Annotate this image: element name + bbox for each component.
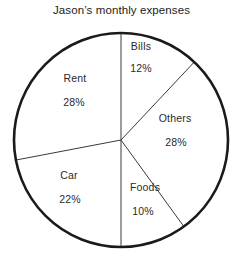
slice-value-bills: 12%	[130, 62, 152, 74]
slice-label-foods: Foods	[130, 181, 160, 193]
slice-label-bills: Bills	[131, 40, 151, 52]
slice-label-car: Car	[60, 169, 78, 181]
slice-value-rent: 28%	[63, 96, 85, 108]
pie-chart-figure: Jason’s monthly expenses Bills 12% Other…	[0, 0, 243, 256]
pie-chart-graphic	[0, 0, 243, 256]
slice-value-car: 22%	[59, 193, 81, 205]
slice-value-foods: 10%	[132, 205, 154, 217]
slice-label-rent: Rent	[64, 72, 87, 84]
slice-label-others: Others	[159, 112, 192, 124]
slice-value-others: 28%	[165, 136, 187, 148]
